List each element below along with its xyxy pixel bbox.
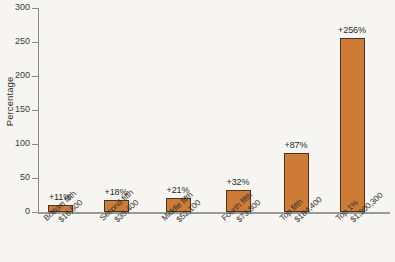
bar-value-label: +87% xyxy=(285,140,308,150)
bar-value-label: +256% xyxy=(338,25,366,35)
bar-group[interactable]: +87% xyxy=(284,8,309,212)
y-tick-label: 0 xyxy=(2,206,30,216)
paper-speck xyxy=(12,248,15,251)
y-tick-label: 250 xyxy=(2,36,30,46)
bar-group[interactable]: +21% xyxy=(166,8,191,212)
y-tick-label: 100 xyxy=(2,138,30,148)
bar-group[interactable]: +32% xyxy=(226,8,251,212)
y-tick-label: 300 xyxy=(2,2,30,12)
bars-layer: +11%+18%+21%+32%+87%+256% xyxy=(38,8,390,212)
y-tick-mark xyxy=(32,212,38,213)
bar-group[interactable]: +18% xyxy=(104,8,129,212)
bar[interactable] xyxy=(340,38,365,212)
bar-value-label: +32% xyxy=(227,177,250,187)
bar-group[interactable]: +11% xyxy=(48,8,73,212)
y-tick-label: 50 xyxy=(2,172,30,182)
bar-chart: Percentage 050100150200250300 +11%+18%+2… xyxy=(0,0,395,262)
paper-speck xyxy=(330,252,333,254)
y-tick-label: 200 xyxy=(2,70,30,80)
bar-group[interactable]: +256% xyxy=(340,8,365,212)
y-tick-label: 150 xyxy=(2,104,30,114)
